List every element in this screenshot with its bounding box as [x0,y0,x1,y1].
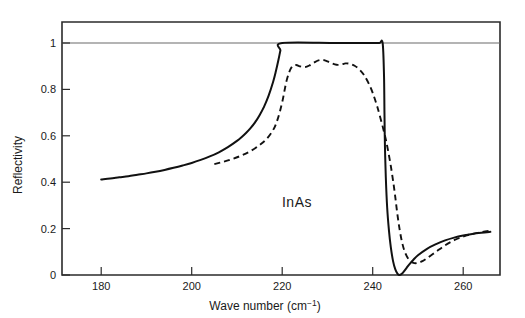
x-tick-label: 180 [92,280,110,292]
material-annotation: InAs [282,194,312,210]
x-tick-label: 260 [454,280,472,292]
figure-container: 1 0.8 0.6 0.4 0.2 0 180 200 220 240 260 … [0,0,525,318]
reflectivity-chart: 1 0.8 0.6 0.4 0.2 0 180 200 220 240 260 … [0,0,525,318]
y-tick-label: 0.2 [41,223,56,235]
y-tick-label: 0 [50,269,56,281]
y-tick-label: 1 [50,37,56,49]
x-tick-label: 200 [183,280,201,292]
x-axis-title: Wave number (cm−1) [209,298,320,313]
x-tick-label: 240 [364,280,382,292]
x-tick-label: 220 [273,280,291,292]
y-tick-label: 0.4 [41,176,56,188]
y-tick-label: 0.8 [41,83,56,95]
chart-background [0,0,525,318]
y-axis-title: Reflectivity [11,136,25,194]
y-tick-label: 0.6 [41,130,56,142]
